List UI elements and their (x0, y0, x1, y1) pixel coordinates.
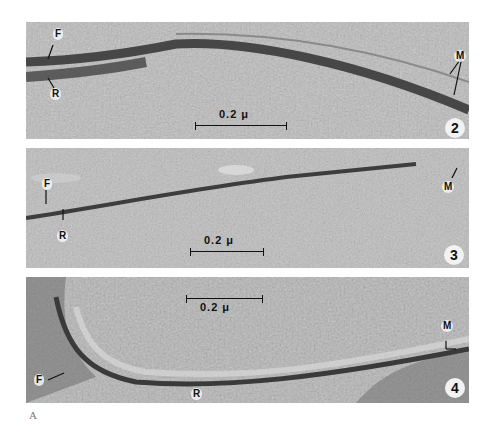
panel-number: 3 (444, 245, 464, 265)
scale-bar-label: 0.2 μ (200, 301, 230, 313)
scale-bar (195, 122, 287, 130)
micrograph-panel-2: F R M 0.2 μ 2 (26, 22, 469, 139)
panel-number: 4 (445, 378, 465, 398)
fracture-face-label: F (53, 28, 63, 40)
ridge-label: R (191, 388, 202, 400)
scale-bar (190, 248, 264, 256)
fracture-face-label: F (34, 374, 44, 386)
micrograph-panel-3: F R M 0.2 μ 3 (26, 148, 469, 268)
scale-bar-label: 0.2 μ (204, 234, 234, 246)
fracture-face-label: F (42, 178, 52, 190)
scale-bar-label: 0.2 μ (219, 108, 249, 120)
micrograph-panel-4: F R M 0.2 μ 4 (26, 277, 469, 403)
ridge-label: R (50, 88, 61, 100)
plate-label: A (29, 409, 37, 421)
ridge-label: R (57, 230, 68, 242)
panel-number: 2 (445, 118, 465, 138)
